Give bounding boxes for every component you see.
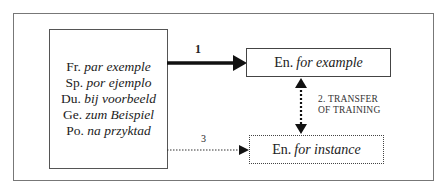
- arrow-3-head-icon: [239, 145, 249, 155]
- transfer-label: 2. TRANSFER OF TRAINING: [318, 94, 380, 116]
- target-box-for-example: En.for example: [246, 48, 391, 77]
- target-box-for-instance: En.for instance: [249, 135, 384, 164]
- arrow-2-head-down-icon: [295, 124, 307, 134]
- arrow-2-head-up-icon: [295, 78, 307, 88]
- arrow-3-label: 3: [201, 133, 206, 144]
- arrow-1-head-icon: [233, 55, 247, 71]
- arrow-1-label: 1: [195, 42, 201, 57]
